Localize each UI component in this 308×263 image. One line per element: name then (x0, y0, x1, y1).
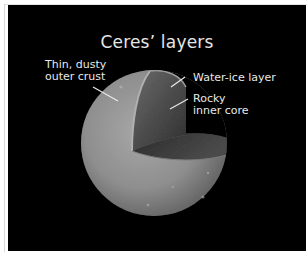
diagram-panel: Ceres’ layers Thin, dusty outer crust Wa… (8, 5, 306, 251)
frame-left-border (4, 4, 5, 252)
label-core-line2: inner core (193, 105, 249, 117)
label-water-ice-layer: Water-ice layer (193, 72, 276, 84)
label-water-ice-line1: Water-ice layer (193, 72, 276, 84)
diagram-title: Ceres’ layers (8, 32, 306, 52)
label-outer-crust: Thin, dusty outer crust (45, 59, 106, 83)
label-rocky-inner-core: Rocky inner core (193, 93, 249, 117)
label-outer-crust-line2: outer crust (45, 71, 106, 83)
